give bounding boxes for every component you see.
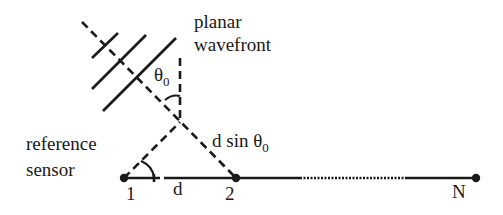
array-geometry-diagram: planar wavefront θ0 d sin θ0 reference s… bbox=[0, 0, 503, 215]
angle-arc-sensor-1 bbox=[141, 161, 154, 178]
wavefront-label-line2: wavefront bbox=[194, 34, 272, 55]
reference-sensor-label-line2: sensor bbox=[26, 159, 75, 180]
wavefront-label-line1: planar bbox=[194, 11, 242, 32]
theta-angle-arc-top bbox=[165, 96, 180, 101]
path-difference-label: d sin θ0 bbox=[212, 130, 269, 155]
spacing-d-label: d bbox=[173, 178, 183, 199]
sensor-1-dot bbox=[120, 174, 128, 182]
wavefront-line-2 bbox=[92, 35, 146, 89]
sensor-N-dot bbox=[472, 174, 480, 182]
sensor-2-label: 2 bbox=[225, 183, 235, 204]
sensor-2-dot bbox=[232, 174, 240, 182]
sensor-N-label: N bbox=[452, 181, 466, 202]
reference-sensor-label-line1: reference bbox=[26, 133, 97, 154]
theta0-symbol: θ0 bbox=[154, 64, 170, 89]
sensor-1-label: 1 bbox=[126, 183, 136, 204]
